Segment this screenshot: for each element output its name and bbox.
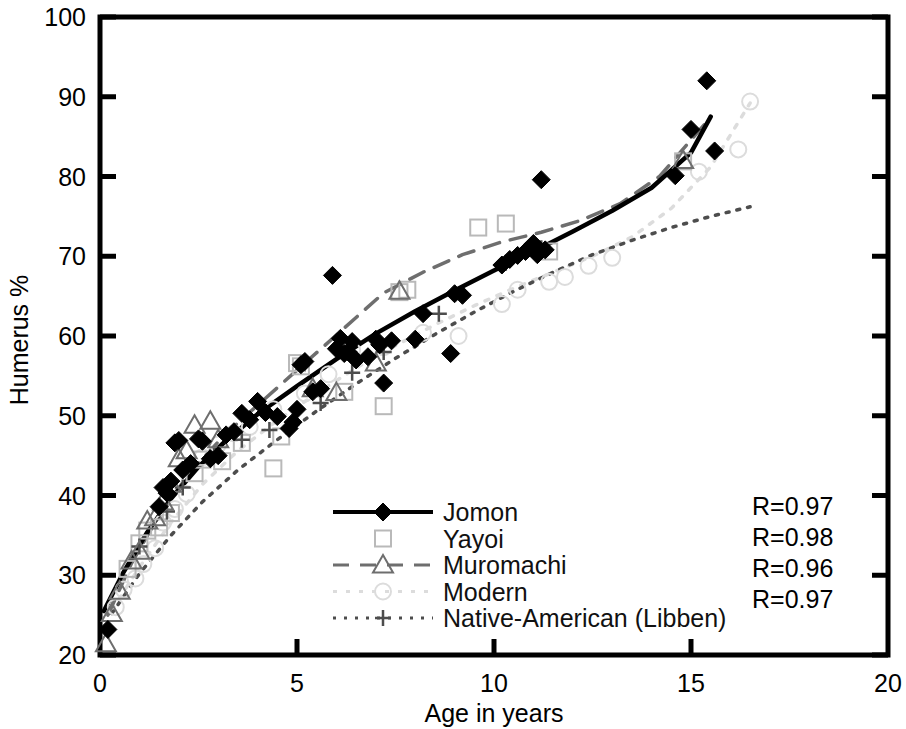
x-tick-label: 10 — [480, 669, 508, 697]
r-value: R=0.97 — [752, 492, 833, 520]
r-value: R=0.96 — [752, 554, 833, 582]
y-tick-label: 80 — [58, 163, 86, 191]
x-tick-label: 15 — [677, 669, 705, 697]
r-value: R=0.98 — [752, 523, 833, 551]
y-axis-title: Humerus % — [5, 275, 33, 406]
x-axis-title: Age in years — [425, 699, 564, 727]
y-tick-label: 20 — [58, 641, 86, 669]
legend-label: Yayoi — [443, 525, 504, 553]
x-tick-label: 5 — [290, 669, 304, 697]
y-tick-label: 60 — [58, 322, 86, 350]
scatter-plot-svg: 2030405060708090100 05101520 Age in year… — [0, 0, 906, 729]
chart-figure: 2030405060708090100 05101520 Age in year… — [0, 0, 906, 729]
legend-label: Modern — [443, 578, 528, 606]
legend-label: Native-American (Libben) — [443, 604, 726, 632]
legend-label: Jomon — [443, 498, 518, 526]
y-tick-label: 50 — [58, 402, 86, 430]
y-tick-label: 100 — [44, 3, 86, 31]
x-tick-label: 0 — [93, 669, 107, 697]
x-tick-label: 20 — [874, 669, 902, 697]
y-tick-label: 30 — [58, 561, 86, 589]
y-tick-label: 90 — [58, 83, 86, 111]
y-tick-label: 70 — [58, 242, 86, 270]
y-tick-label: 40 — [58, 482, 86, 510]
legend-label: Muromachi — [443, 551, 567, 579]
r-value: R=0.97 — [752, 585, 833, 613]
